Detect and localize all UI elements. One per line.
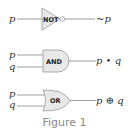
logic-gates-diagram: p NOT ~p p q AND p • q p q OR p ⊕ q [0,0,129,132]
or-input-p: p [9,88,16,99]
inverter-bubble [60,17,65,22]
not-output: ~p [96,13,111,24]
not-input-p: p [9,13,16,24]
or-output: p ⊕ q [96,95,124,106]
not-gate-label: NOT [43,16,59,24]
figure-caption: Figure 1 [0,116,129,129]
not-gate: p NOT ~p [9,8,111,30]
or-gate: p q OR p ⊕ q [9,88,124,111]
and-input-q: q [9,61,15,72]
or-gate-label: OR [50,97,61,105]
and-gate-label: AND [46,58,62,66]
or-input-q: q [9,99,15,110]
and-output: p • q [96,55,121,66]
and-input-p: p [9,49,16,60]
and-gate: p q AND p • q [9,49,121,72]
